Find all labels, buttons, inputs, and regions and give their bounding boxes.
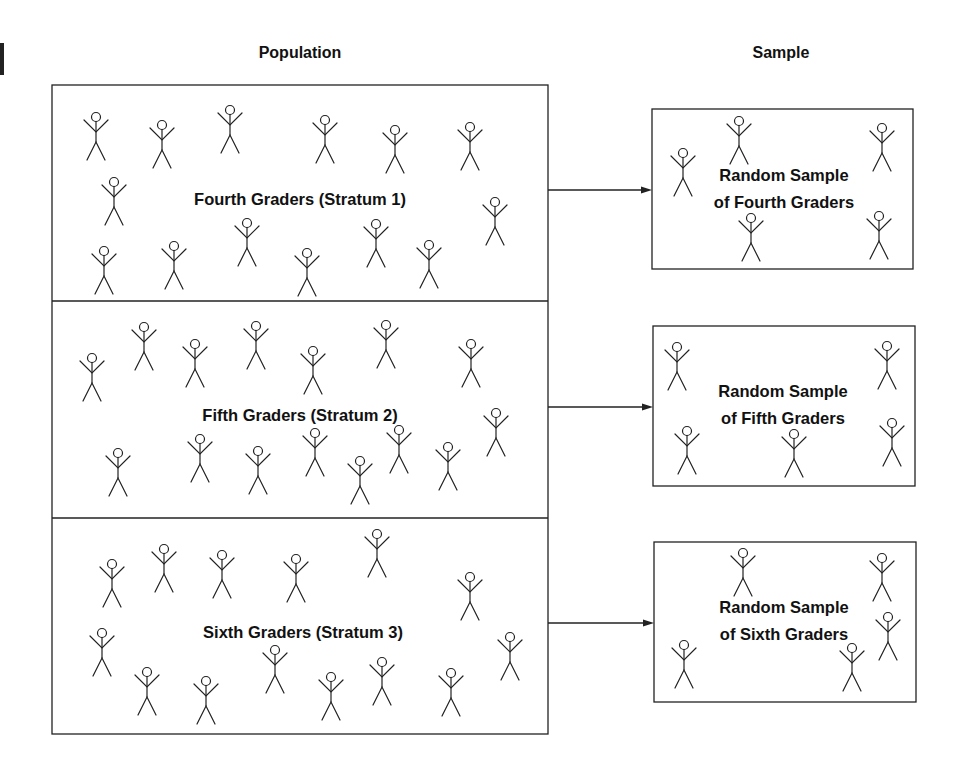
stratum-2-label: Fifth Graders (Stratum 2) <box>202 407 397 424</box>
arrow-right-icon <box>548 404 653 411</box>
stick-figure-icon <box>665 343 689 391</box>
stick-figure-icon <box>135 668 159 716</box>
stick-figure-icon <box>150 121 174 169</box>
stick-figure-icon <box>459 340 483 388</box>
stick-figure-icon <box>235 219 259 267</box>
stick-figure-icon <box>876 613 900 661</box>
stick-figure-icon <box>348 457 372 505</box>
stick-figure-icon <box>100 560 124 608</box>
stick-figure-icon <box>263 646 287 694</box>
stick-figure-icon <box>867 212 891 260</box>
stick-figure-icon <box>284 555 308 603</box>
stick-figure-icon <box>152 545 176 593</box>
stick-figure-icon <box>671 149 695 197</box>
stick-figure-icon <box>498 633 522 681</box>
sample-1-line1: Random Sample <box>714 162 854 189</box>
stick-figure-icon <box>84 113 108 161</box>
arrows <box>548 187 654 627</box>
stick-figure-icon <box>218 106 242 154</box>
stick-figure-icon <box>162 242 186 290</box>
sample-2-line2: of Fifth Graders <box>718 405 847 432</box>
population-header: Population <box>259 45 342 61</box>
stick-figure-icon <box>782 430 806 478</box>
sample-3-line2: of Sixth Graders <box>719 621 848 648</box>
stick-figure-icon <box>731 549 755 597</box>
stick-figure-icon <box>313 116 337 164</box>
stick-figure-icon <box>246 447 270 495</box>
stick-figure-icon <box>90 629 114 677</box>
stratum-1-label: Fourth Graders (Stratum 1) <box>194 191 406 208</box>
stick-figure-icon <box>458 573 482 621</box>
stick-figure-icon <box>365 530 389 578</box>
stratum-3-label: Sixth Graders (Stratum 3) <box>203 624 403 641</box>
stick-figure-icon <box>319 673 343 721</box>
stick-figure-icon <box>870 554 894 602</box>
arrow-right-icon <box>548 187 652 194</box>
stick-figure-icon <box>739 214 763 262</box>
stick-figure-icon <box>870 124 894 172</box>
stick-figure-icon <box>102 178 126 226</box>
stick-figure-icon <box>727 117 751 165</box>
stick-figure-icon <box>301 347 325 395</box>
stick-figure-icon <box>387 426 411 474</box>
stick-figure-icon <box>374 321 398 369</box>
stick-figure-icon <box>840 644 864 692</box>
stick-figure-icon <box>370 658 394 706</box>
sample-header: Sample <box>753 45 810 61</box>
stick-figure-icon <box>484 409 508 457</box>
stick-figure-icon <box>210 551 234 599</box>
stick-figure-icon <box>458 123 482 171</box>
stick-figure-icon <box>303 429 327 477</box>
sample-1-line2: of Fourth Graders <box>714 189 854 216</box>
stick-figure-icon <box>436 443 460 491</box>
sample-2-label: Random Sample of Fifth Graders <box>718 378 847 432</box>
sample-1-label: Random Sample of Fourth Graders <box>714 162 854 216</box>
stick-figure-icon <box>295 249 319 297</box>
stick-figure-icon <box>132 323 156 371</box>
stick-figure-icon <box>244 322 268 370</box>
sample-2-line1: Random Sample <box>718 378 847 405</box>
stick-figure-icon <box>92 247 116 295</box>
sample-3-label: Random Sample of Sixth Graders <box>719 594 848 648</box>
stick-figure-icon <box>675 427 699 475</box>
stick-figure-icon <box>439 669 463 717</box>
stick-figure-icon <box>417 241 441 289</box>
stick-figure-icon <box>880 419 904 467</box>
stick-figure-icon <box>483 198 507 246</box>
stick-figure-icon <box>672 641 696 689</box>
stick-figure-icon <box>383 126 407 174</box>
arrow-right-icon <box>548 620 654 627</box>
stick-figure-icon <box>106 449 130 497</box>
stick-figure-icon <box>194 677 218 725</box>
stick-figure-icon <box>80 354 104 402</box>
stick-figure-icon <box>875 342 899 390</box>
stick-figure-icon <box>188 435 212 483</box>
sample-3-line1: Random Sample <box>719 594 848 621</box>
stick-figure-icon <box>183 340 207 388</box>
stick-figure-icon <box>364 220 388 268</box>
